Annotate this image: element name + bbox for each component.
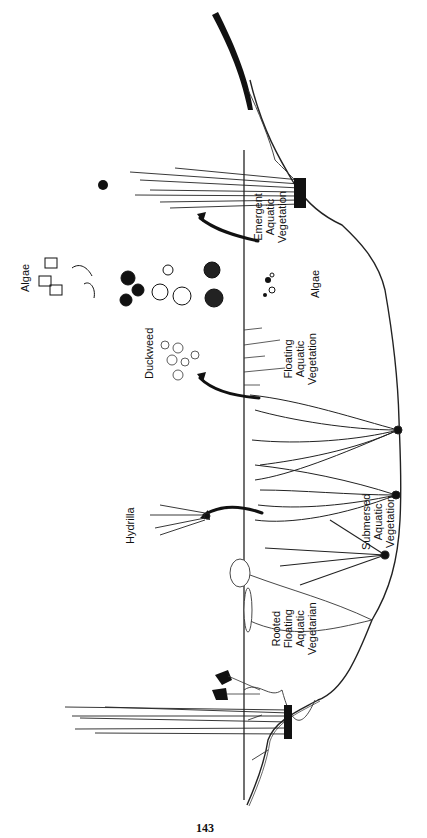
label-line: Rooted bbox=[270, 602, 282, 655]
label-line: Vegetation bbox=[306, 333, 318, 385]
scanned-page: Emergent Aquatic Vegetation Algae Floati… bbox=[0, 0, 427, 838]
label-line: Aquatic bbox=[294, 602, 306, 655]
label-hydrilla-callout: Hydrilla bbox=[124, 507, 136, 544]
label-duckweed-callout: Duckweed bbox=[143, 328, 155, 379]
algae-in-water bbox=[263, 273, 275, 297]
label-rooted-floating-aquatic-vegetarian: Rooted Floating Aquatic Vegetarian bbox=[270, 602, 318, 655]
label-line: Algae bbox=[309, 270, 321, 298]
label-submersed-aquatic-vegetation: Submersed Aquatic Vegetation bbox=[360, 494, 396, 550]
label-line: Vegetation bbox=[276, 191, 288, 243]
label-line: Duckweed bbox=[143, 328, 155, 379]
water-lily-flowers bbox=[212, 670, 232, 700]
label-line: Aquatic bbox=[372, 494, 384, 550]
hydrilla-plant bbox=[150, 505, 210, 535]
pond-bottom-profile bbox=[247, 80, 401, 805]
label-algae-callout: Algae bbox=[19, 264, 31, 292]
label-line: Floating bbox=[282, 333, 294, 385]
label-line: Vegetarian bbox=[306, 602, 318, 655]
shore-bush bbox=[212, 12, 253, 110]
label-line: Floating bbox=[282, 602, 294, 655]
label-emergent-aquatic-vegetation: Emergent Aquatic Vegetation bbox=[252, 191, 288, 243]
algae-cluster bbox=[39, 258, 223, 307]
label-floating-aquatic-vegetation: Floating Aquatic Vegetation bbox=[282, 333, 318, 385]
label-line: Aquatic bbox=[264, 191, 276, 243]
label-line: Hydrilla bbox=[124, 507, 136, 544]
duckweed-cluster bbox=[161, 341, 199, 380]
label-algae-in-water: Algae bbox=[309, 270, 321, 298]
pond-cross-section-illustration bbox=[0, 0, 427, 838]
label-line: Aquatic bbox=[294, 333, 306, 385]
floating-vegetation-roots bbox=[244, 328, 285, 385]
tall-reeds-lower bbox=[65, 705, 292, 739]
label-line: Submersed bbox=[360, 494, 372, 550]
label-line: Emergent bbox=[252, 191, 264, 243]
label-line: Vegetation bbox=[384, 494, 396, 550]
page-number: 143 bbox=[196, 821, 214, 836]
label-line: Algae bbox=[19, 264, 31, 292]
